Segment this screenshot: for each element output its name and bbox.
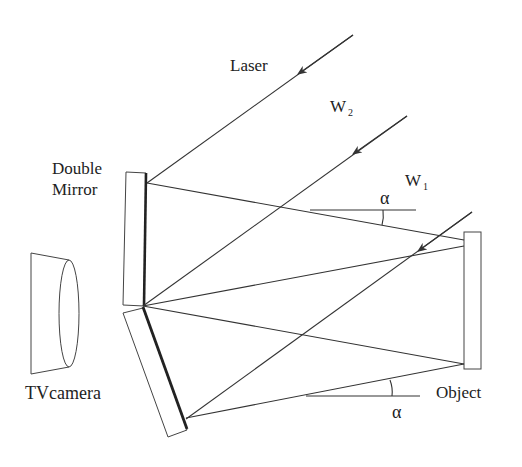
lower-mirror bbox=[123, 307, 187, 437]
w1-label-sub: 1 bbox=[423, 181, 428, 192]
w2-label-sub: 2 bbox=[348, 107, 353, 118]
ray-lower-mirror-to-object bbox=[186, 364, 464, 418]
object-plate bbox=[464, 232, 481, 369]
laser-label: Laser bbox=[230, 57, 268, 74]
alpha-bottom-arc bbox=[390, 380, 392, 396]
diagram-canvas: Laser W2 W1 α Double Mirror TVcamera Obj… bbox=[0, 0, 522, 467]
tv-camera-label: TVcamera bbox=[25, 384, 101, 402]
alpha-top-arc bbox=[382, 210, 383, 225]
tv-camera-icon bbox=[31, 253, 79, 374]
w2-label-main: W bbox=[330, 97, 346, 116]
upper-mirror bbox=[123, 172, 146, 306]
w1-label: W1 bbox=[405, 172, 428, 192]
w1-label-main: W bbox=[405, 171, 421, 190]
double-mirror-label-line1: Double bbox=[52, 160, 102, 177]
alpha-top-label: α bbox=[380, 189, 389, 207]
object-label: Object bbox=[436, 384, 481, 401]
ray-pivot-to-object-top bbox=[143, 246, 464, 306]
w2-label: W2 bbox=[330, 98, 353, 118]
ray-pivot-to-object-bottom bbox=[143, 306, 464, 364]
alpha-bottom-label: α bbox=[392, 403, 401, 421]
double-mirror-label-line2: Mirror bbox=[52, 181, 97, 198]
